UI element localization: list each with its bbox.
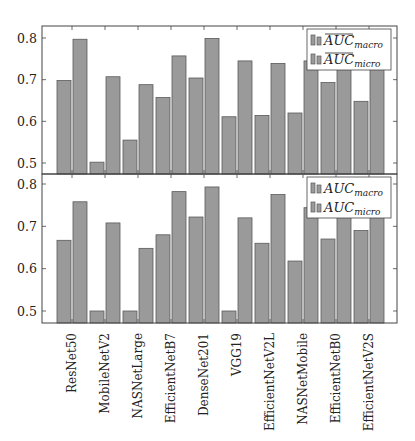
y-tick-label: 0.6	[17, 114, 37, 129]
x-tick-label-EfficientNetV2L: EfficientNetV2L	[263, 333, 277, 431]
bar-bottom-macro-DenseNet201	[189, 217, 203, 323]
bar-top-macro-EfficientNetV2S	[354, 101, 368, 174]
legend-swatch	[311, 35, 315, 45]
legend-main-text: AUC	[323, 33, 354, 48]
y-tick-label: 0.5	[17, 304, 37, 319]
legend-swatch	[317, 204, 321, 212]
bar-bottom-micro-ResNet50	[73, 202, 87, 323]
bar-bottom-macro-ResNet50	[57, 240, 71, 323]
bar-top-macro-VGG19	[222, 117, 236, 174]
legend-swatch	[317, 185, 321, 193]
bar-bottom-micro-NASNetLarge	[139, 248, 153, 323]
x-tick-label-EfficientNetV2S: EfficientNetV2S	[362, 333, 376, 431]
y-tick-label: 0.7	[17, 72, 37, 87]
bar-top-macro-EfficientNetB0	[321, 83, 335, 174]
chart-panel-bottom: 0.50.60.70.8AUCmacroAUCmicro	[17, 174, 397, 323]
chart-panel-top: 0.50.60.70.8AUCmacroAUCmicro	[17, 26, 397, 174]
legend-top: AUCmacroAUCmicro	[307, 29, 391, 70]
legend-swatch	[317, 37, 321, 45]
bar-bottom-micro-MobileNetV2	[106, 223, 120, 323]
legend-sub-text: macro	[354, 40, 383, 50]
x-tick-label-MobileNetV2: MobileNetV2	[98, 333, 112, 414]
bar-top-macro-EfficientNetB7	[156, 98, 170, 174]
bar-bottom-micro-EfficientNetV2L	[271, 195, 285, 323]
bar-bottom-macro-EfficientNetB0	[321, 239, 335, 323]
bar-top-macro-MobileNetV2	[90, 162, 104, 174]
bar-bottom-macro-VGG19	[222, 311, 236, 323]
bar-top-micro-EfficientNetV2L	[271, 63, 285, 174]
y-tick-label: 0.7	[17, 219, 37, 234]
legend-sub-text: macro	[354, 188, 383, 198]
x-tick-label-NASNetMobile: NASNetMobile	[296, 333, 310, 425]
x-tick-label-VGG19: VGG19	[230, 333, 244, 377]
bar-bottom-macro-NASNetLarge	[123, 311, 137, 323]
legend-main-text: AUC	[323, 181, 354, 196]
x-tick-label-EfficientNetB7: EfficientNetB7	[164, 333, 178, 423]
bar-bottom-macro-MobileNetV2	[90, 311, 104, 323]
legend-bottom: AUCmacroAUCmicro	[307, 177, 391, 218]
bar-bottom-macro-NASNetMobile	[288, 261, 302, 323]
bar-bottom-micro-DenseNet201	[205, 187, 219, 323]
bar-top-macro-EfficientNetV2L	[255, 116, 269, 175]
x-tick-label-NASNetLarge: NASNetLarge	[131, 333, 145, 418]
bar-top-micro-DenseNet201	[205, 38, 219, 174]
bar-top-macro-NASNetLarge	[123, 140, 137, 174]
bar-bottom-macro-EfficientNetV2L	[255, 243, 269, 323]
y-tick-label: 0.6	[17, 261, 37, 276]
x-tick-label-EfficientNetB0: EfficientNetB0	[329, 333, 343, 423]
y-tick-label: 0.8	[17, 31, 37, 46]
y-tick-label: 0.5	[17, 156, 37, 171]
legend-swatch	[311, 202, 315, 212]
bar-bottom-macro-EfficientNetB7	[156, 235, 170, 323]
bar-top-macro-ResNet50	[57, 81, 71, 175]
bar-top-micro-NASNetLarge	[139, 85, 153, 174]
bar-top-micro-VGG19	[238, 61, 252, 174]
legend-main-text: AUC	[323, 200, 354, 215]
legend-sub-text: micro	[354, 207, 381, 217]
legend-main-text: AUC	[323, 52, 354, 67]
chart-canvas: 0.50.60.70.8AUCmacroAUCmicro0.50.60.70.8…	[0, 0, 415, 441]
bar-top-macro-DenseNet201	[189, 78, 203, 174]
bar-bottom-micro-NASNetMobile	[304, 208, 318, 323]
bar-bottom-micro-VGG19	[238, 218, 252, 323]
legend-swatch	[311, 183, 315, 193]
bar-bottom-macro-EfficientNetV2S	[354, 231, 368, 323]
legend-sub-text: micro	[354, 59, 381, 69]
bar-top-micro-MobileNetV2	[106, 77, 120, 174]
bar-top-micro-NASNetMobile	[304, 61, 318, 174]
x-tick-label-ResNet50: ResNet50	[65, 333, 79, 393]
legend-swatch	[317, 56, 321, 64]
legend-swatch	[311, 54, 315, 64]
bar-bottom-micro-EfficientNetB7	[172, 192, 186, 323]
bar-top-micro-EfficientNetB7	[172, 56, 186, 174]
y-tick-label: 0.8	[17, 177, 37, 192]
x-tick-label-DenseNet201: DenseNet201	[197, 333, 211, 416]
chart-figure: 0.50.60.70.8AUCmacroAUCmicro0.50.60.70.8…	[0, 0, 415, 441]
bar-top-macro-NASNetMobile	[288, 113, 302, 174]
bar-top-micro-ResNet50	[73, 39, 87, 174]
